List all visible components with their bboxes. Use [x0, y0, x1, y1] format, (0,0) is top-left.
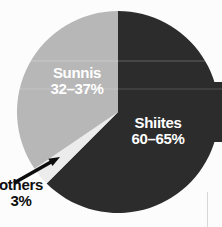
shiites-slice-value: 60–65% — [118, 131, 198, 147]
label-others: others 3% — [0, 177, 44, 209]
shiites-slice-name: Shiites — [118, 115, 198, 131]
others-slice-value: 3% — [0, 193, 44, 209]
scan-artifact-line — [207, 192, 208, 227]
pie-chart-figure: Sunnis 32–37% Shiites 60–65% others 3% — [0, 0, 222, 227]
sunnis-slice-name: Sunnis — [37, 65, 117, 81]
others-slice-name: others — [0, 177, 44, 193]
label-shiites: Shiites 60–65% — [118, 115, 198, 147]
sunnis-slice-value: 32–37% — [37, 81, 117, 97]
label-sunnis: Sunnis 32–37% — [37, 65, 117, 97]
